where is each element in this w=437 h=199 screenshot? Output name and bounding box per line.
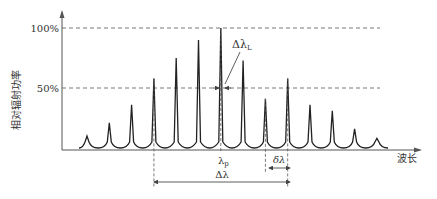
y-axis-arrow xyxy=(60,10,65,18)
mode-spacing-label: δλ xyxy=(273,154,285,165)
ytick-label-100: 100% xyxy=(30,23,59,34)
peak-wavelength-label: λp xyxy=(218,155,229,168)
linewidth-label: ΔλL xyxy=(232,38,252,52)
x-axis-label: 波长 xyxy=(397,152,417,164)
ytick-label-50: 50% xyxy=(37,83,59,94)
spectral-width-label: Δλ xyxy=(215,169,229,180)
y-axis-label: 相对辐射功率 xyxy=(10,70,22,130)
linewidth-leader xyxy=(225,52,240,84)
spectrum-diagram: 100% 50% 相对辐射功率 波长 ΔλL λp δλ Δλ xyxy=(0,0,437,199)
x-axis-arrow xyxy=(414,148,422,153)
